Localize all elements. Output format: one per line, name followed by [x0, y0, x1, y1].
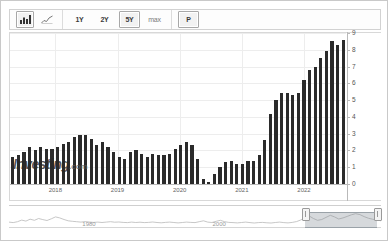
y-axis-tick-label: 0 — [352, 181, 356, 188]
chart-bar[interactable] — [336, 45, 339, 184]
chart-bar[interactable] — [174, 149, 177, 184]
y-axis-tick-mark — [348, 67, 350, 68]
chart-bar[interactable] — [106, 147, 109, 184]
chart-bar[interactable] — [129, 152, 132, 184]
chart-bar[interactable] — [185, 142, 188, 184]
x-axis-tick-label: 2022 — [297, 187, 310, 193]
chart-bar[interactable] — [78, 135, 81, 184]
y-axis-tick-label: 8 — [352, 47, 356, 54]
range-button-1y[interactable]: 1Y — [69, 11, 90, 28]
x-axis-tick-label: 2021 — [235, 187, 248, 193]
chart-bar[interactable] — [302, 80, 305, 184]
chart-bar[interactable] — [280, 93, 283, 184]
navigator-label-1980: 1980 — [82, 221, 95, 227]
chart-bar[interactable] — [297, 93, 300, 184]
chart-bar[interactable] — [112, 152, 115, 184]
chart-bar[interactable] — [140, 154, 143, 184]
chart-bar[interactable] — [157, 155, 160, 184]
chart-bar[interactable] — [263, 140, 266, 184]
y-axis-tick-label: 4 — [352, 114, 356, 121]
navigator-left-handle[interactable] — [302, 208, 310, 221]
chart-bar[interactable] — [17, 155, 20, 184]
y-axis-tick-label: 1 — [352, 164, 356, 171]
chart-bar[interactable] — [325, 51, 328, 184]
chart-bar[interactable] — [134, 150, 137, 184]
range-button-max[interactable]: max — [144, 11, 165, 28]
range-navigator[interactable]: 1980 2000 — [9, 204, 381, 232]
y-axis-tick-mark — [348, 184, 350, 185]
chart-bar[interactable] — [50, 149, 53, 184]
chart-bar[interactable] — [190, 145, 193, 184]
chart-bar[interactable] — [274, 100, 277, 184]
navigator-label-2000: 2000 — [212, 221, 225, 227]
y-axis-tick-mark — [348, 150, 350, 151]
y-axis-tick-label: 3 — [352, 131, 356, 138]
range-button-5y[interactable]: 5Y — [119, 11, 140, 28]
y-axis-tick-mark — [348, 50, 350, 51]
navigator-selection[interactable] — [305, 212, 378, 228]
chart-bar[interactable] — [179, 145, 182, 184]
chart-bar[interactable] — [330, 41, 333, 184]
navigator-right-handle[interactable] — [374, 208, 382, 221]
chart-bar[interactable] — [62, 144, 65, 184]
y-axis-tick-label: 9 — [352, 30, 356, 37]
chart-bar[interactable] — [291, 95, 294, 184]
chart-bar[interactable] — [342, 40, 345, 184]
chart-bar[interactable] — [218, 167, 221, 184]
x-axis-line — [10, 184, 347, 185]
bar-series — [10, 33, 346, 184]
chart-plot-area[interactable] — [10, 33, 346, 184]
chart-bar[interactable] — [84, 135, 87, 184]
y-axis-tick-label: 6 — [352, 80, 356, 87]
chart-bar[interactable] — [123, 159, 126, 184]
chart-bar[interactable] — [224, 162, 227, 184]
chart-bar[interactable] — [56, 147, 59, 184]
chart-bar[interactable] — [11, 157, 14, 184]
chart-type-group — [10, 10, 63, 29]
period-group: P — [172, 10, 205, 29]
y-axis-tick-label: 5 — [352, 97, 356, 104]
chart-bar[interactable] — [146, 157, 149, 184]
chart-bar[interactable] — [28, 147, 31, 184]
y-axis: 0123456789 — [347, 32, 381, 201]
period-button[interactable]: P — [178, 11, 199, 28]
y-axis-tick-mark — [348, 167, 350, 168]
chart-bar[interactable] — [286, 93, 289, 184]
chart-bar[interactable] — [34, 150, 37, 184]
chart-bar[interactable] — [118, 157, 121, 184]
y-axis-tick-mark — [348, 33, 350, 34]
investing-chart-widget: 1Y 2Y 5Y max P 0123456789 Investing.com … — [0, 0, 388, 241]
chart-bar[interactable] — [252, 161, 255, 184]
chart-bar[interactable] — [168, 154, 171, 184]
chart-bar[interactable] — [151, 154, 154, 184]
chart-bar[interactable] — [95, 145, 98, 184]
chart-bar[interactable] — [269, 114, 272, 184]
bar-chart-icon[interactable] — [16, 11, 34, 28]
chart-bar[interactable] — [73, 137, 76, 184]
chart-bar[interactable] — [235, 164, 238, 184]
chart-bar[interactable] — [246, 161, 249, 184]
line-chart-icon[interactable] — [38, 11, 56, 28]
chart-bar[interactable] — [314, 67, 317, 184]
range-button-2y[interactable]: 2Y — [94, 11, 115, 28]
chart-bar[interactable] — [90, 139, 93, 184]
chart-bar[interactable] — [241, 164, 244, 184]
y-axis-tick-mark — [348, 134, 350, 135]
x-axis-tick-label: 2020 — [173, 187, 186, 193]
time-range-group: 1Y 2Y 5Y max — [63, 10, 172, 29]
chart-bar[interactable] — [213, 174, 216, 184]
chart-bar[interactable] — [101, 142, 104, 184]
chart-bar[interactable] — [308, 70, 311, 184]
chart-bar[interactable] — [22, 152, 25, 184]
chart-bar[interactable] — [67, 142, 70, 184]
chart-bar[interactable] — [258, 155, 261, 184]
chart-bar[interactable] — [162, 155, 165, 184]
x-axis-tick-label: 2019 — [111, 187, 124, 193]
chart-bar[interactable] — [45, 149, 48, 184]
chart-bar[interactable] — [196, 159, 199, 184]
chart-toolbar: 1Y 2Y 5Y max P — [9, 9, 381, 30]
chart-bar[interactable] — [39, 147, 42, 184]
chart-bar[interactable] — [319, 58, 322, 184]
x-axis-tick-label: 2018 — [49, 187, 62, 193]
chart-bar[interactable] — [230, 161, 233, 184]
